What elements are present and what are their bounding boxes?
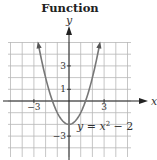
chart-plot: x y −3 3 3 1 −3 y = x2 − 2 bbox=[0, 0, 157, 160]
x-axis-arrow-icon bbox=[139, 98, 148, 104]
y-tick-label-1: 1 bbox=[60, 84, 66, 94]
equation-label: y = x2 − 2 bbox=[76, 120, 133, 133]
y-tick-label-neg3: −3 bbox=[53, 131, 67, 141]
y-axis-label: y bbox=[65, 14, 73, 27]
y-tick-label-3: 3 bbox=[60, 61, 66, 71]
y-axis-arrow-icon bbox=[66, 26, 72, 35]
x-tick-label-3: 3 bbox=[101, 102, 107, 112]
x-axis-label: x bbox=[151, 95, 157, 108]
axes bbox=[3, 26, 148, 160]
x-tick-label-neg3: −3 bbox=[27, 102, 41, 112]
